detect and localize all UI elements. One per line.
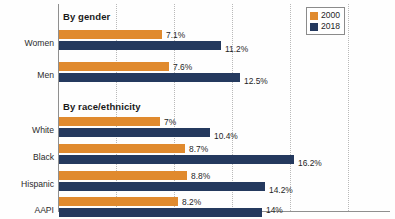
value-label-aapi-2018: 14% [266, 205, 283, 215]
chart-legend: 2000 2018 [306, 7, 345, 35]
value-label-black-2000: 8.7% [189, 144, 208, 154]
category-label-black: Black [0, 152, 54, 162]
gridline-16 [290, 4, 292, 211]
bar-black-2018 [59, 155, 294, 164]
category-label-aapi: AAPI [0, 205, 54, 215]
bar-white-2000 [59, 117, 160, 126]
value-label-men-2018: 12.5% [244, 76, 268, 86]
bar-women-2018 [59, 41, 221, 50]
value-label-aapi-2000: 8.2% [182, 197, 201, 207]
value-label-women-2000: 7.1% [166, 30, 185, 40]
bar-women-2000 [59, 30, 162, 39]
value-label-men-2000: 7.6% [173, 62, 192, 72]
bar-chart: By gender Women 7.1% 11.2% Men 7.6% 12.5… [0, 0, 395, 219]
bar-white-2018 [59, 128, 210, 137]
bar-men-2000 [59, 62, 169, 71]
bar-men-2018 [59, 73, 240, 82]
value-label-white-2018: 10.4% [214, 131, 238, 141]
bar-hispanic-2018 [59, 182, 265, 191]
legend-item-2000: 2000 [310, 10, 340, 21]
legend-swatch-2018 [310, 23, 318, 31]
value-label-white-2000: 7% [164, 117, 176, 127]
value-label-black-2018: 16.2% [298, 158, 322, 168]
group-header-gender: By gender [63, 11, 110, 22]
value-label-women-2018: 11.2% [225, 44, 248, 54]
category-label-hispanic: Hispanic [0, 179, 54, 189]
value-label-hispanic-2018: 14.2% [269, 185, 293, 195]
bar-black-2000 [59, 144, 185, 153]
legend-label-2000: 2000 [321, 10, 340, 21]
bar-aapi-2018 [59, 208, 262, 217]
value-label-hispanic-2000: 8.8% [191, 171, 210, 181]
legend-item-2018: 2018 [310, 21, 340, 32]
category-label-white: White [0, 125, 54, 135]
bar-hispanic-2000 [59, 171, 187, 180]
category-label-men: Men [0, 70, 54, 80]
category-label-women: Women [0, 38, 54, 48]
gridline-20 [348, 4, 350, 211]
legend-swatch-2000 [310, 12, 318, 20]
legend-label-2018: 2018 [321, 21, 340, 32]
gridline-12 [232, 4, 234, 211]
bar-aapi-2000 [59, 197, 178, 206]
group-header-race: By race/ethnicity [63, 101, 141, 112]
